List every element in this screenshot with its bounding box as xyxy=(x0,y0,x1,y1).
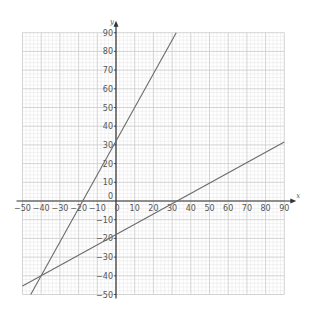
x-tick-label: 40 xyxy=(186,204,196,213)
y-tick-label: 50 xyxy=(103,104,113,113)
tick-labels: −50−40−30−20−100102030405060708090−50−40… xyxy=(14,29,289,300)
y-tick-label: −40 xyxy=(96,272,113,281)
y-tick-label: 90 xyxy=(103,29,113,38)
y-tick-label: 80 xyxy=(103,47,113,56)
y-tick-label: −20 xyxy=(96,234,113,243)
y-tick-label: −30 xyxy=(96,253,113,262)
x-tick-label: −30 xyxy=(51,204,68,213)
x-tick-label: 80 xyxy=(261,204,271,213)
y-tick-label: 10 xyxy=(103,178,113,187)
y-axis-arrow-icon xyxy=(114,21,119,27)
x-axis-label: x xyxy=(296,192,300,200)
y-axis-label: y xyxy=(109,18,115,26)
y-tick-label: −50 xyxy=(96,291,113,300)
y-tick-label: 40 xyxy=(103,122,113,131)
x-tick-label: 70 xyxy=(242,204,252,213)
x-tick-label: 10 xyxy=(130,204,140,213)
y-tick-label: 0 xyxy=(108,192,113,201)
x-tick-label: −50 xyxy=(14,204,31,213)
y-tick-label: −10 xyxy=(96,216,113,225)
coordinate-graph: −50−40−30−20−100102030405060708090−50−40… xyxy=(0,0,311,315)
x-tick-label: 0 xyxy=(114,204,119,213)
x-tick-label: 90 xyxy=(279,204,289,213)
x-tick-label: −40 xyxy=(33,204,50,213)
x-tick-label: −10 xyxy=(89,204,106,213)
x-tick-label: 60 xyxy=(223,204,233,213)
y-tick-label: 60 xyxy=(103,85,113,94)
y-tick-label: 70 xyxy=(103,66,113,75)
x-tick-label: 50 xyxy=(204,204,214,213)
